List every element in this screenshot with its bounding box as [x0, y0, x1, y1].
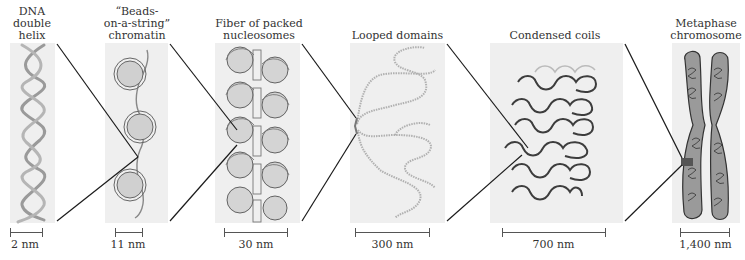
nucleosome-beads-icon	[114, 50, 156, 218]
scale-label-30nm: 30 nm	[236, 238, 276, 251]
looped-domains-icon	[357, 47, 435, 218]
scale-bar-700nm	[502, 228, 606, 237]
scale-label-1400nm: 1,400 nm	[673, 238, 738, 251]
chromosome-icon	[681, 51, 728, 219]
scale-bar-30nm	[224, 228, 288, 237]
scale-label-11nm: 11 nm	[108, 238, 148, 251]
nucleosome-fiber-icon	[226, 47, 289, 222]
scale-label-300nm: 300 nm	[365, 238, 420, 251]
scale-bar-2nm	[10, 228, 43, 237]
condensed-coils-icon	[505, 66, 596, 200]
chromatin-illustration	[0, 0, 745, 260]
dna-helix-icon	[18, 45, 45, 222]
scale-label-700nm: 700 nm	[526, 238, 581, 251]
scale-bar-1400nm	[680, 228, 730, 237]
scale-bar-11nm	[115, 228, 143, 237]
scale-label-2nm: 2 nm	[5, 238, 45, 251]
scale-bar-300nm	[355, 228, 430, 237]
